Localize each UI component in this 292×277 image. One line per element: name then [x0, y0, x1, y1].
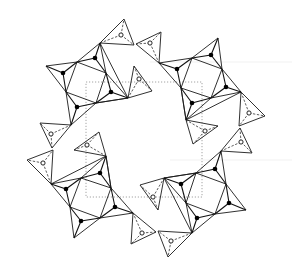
open-atom-icon	[137, 77, 141, 81]
filled-atom-icon	[64, 187, 69, 192]
open-atom-icon	[239, 140, 243, 144]
filled-atom-icon	[209, 53, 214, 58]
open-atom-icon	[49, 132, 53, 136]
open-atom-icon	[203, 129, 207, 133]
open-atom-icon	[151, 195, 155, 199]
framework-edge	[96, 73, 106, 103]
framework-edge	[181, 88, 211, 98]
structure-diagram	[0, 0, 292, 277]
filled-atom-icon	[190, 101, 195, 106]
dashed-bond	[139, 79, 152, 91]
framework-figure	[0, 0, 292, 277]
open-atom-icon	[140, 231, 144, 235]
framework-edge	[96, 98, 128, 103]
open-atom-icon	[41, 161, 45, 165]
filled-atom-icon	[109, 90, 114, 95]
open-atom-icon	[148, 41, 152, 45]
framework-edge	[181, 88, 186, 120]
dashed-bond	[221, 142, 241, 151]
dashed-bond	[150, 43, 159, 63]
dashed-bond	[133, 213, 142, 233]
open-atom-icon	[85, 143, 89, 147]
dashed-bond	[51, 125, 71, 134]
dashed-bond	[241, 92, 249, 113]
open-atom-icon	[169, 239, 173, 243]
filled-atom-icon	[79, 219, 84, 224]
filled-atom-icon	[213, 167, 218, 172]
filled-atom-icon	[93, 56, 98, 61]
filled-atom-icon	[179, 182, 184, 187]
filled-atom-icon	[75, 105, 80, 110]
open-atom-icon	[119, 33, 123, 37]
filled-atom-icon	[61, 71, 66, 76]
dashed-bond	[140, 185, 153, 197]
filled-atom-icon	[113, 205, 118, 210]
framework-edge	[186, 173, 196, 203]
filled-atom-icon	[224, 85, 229, 90]
dashed-bond	[87, 132, 99, 145]
framework-edge	[164, 173, 196, 178]
filled-atom-icon	[195, 216, 200, 221]
filled-atom-icon	[175, 67, 180, 72]
framework-edge	[81, 178, 111, 188]
open-tetrahedron	[140, 178, 164, 210]
dashed-bond	[43, 163, 51, 184]
filled-atom-icon	[98, 171, 103, 176]
open-atom-icon	[247, 111, 251, 115]
dashed-bond	[171, 233, 192, 241]
unit-cell-outline	[86, 82, 202, 197]
filled-atom-icon	[227, 201, 232, 206]
dashed-bond	[193, 131, 205, 144]
polyhedra-layer	[27, 19, 265, 257]
framework-edge	[106, 156, 111, 188]
dashed-bond	[100, 35, 121, 43]
open-tetrahedron	[74, 132, 106, 156]
